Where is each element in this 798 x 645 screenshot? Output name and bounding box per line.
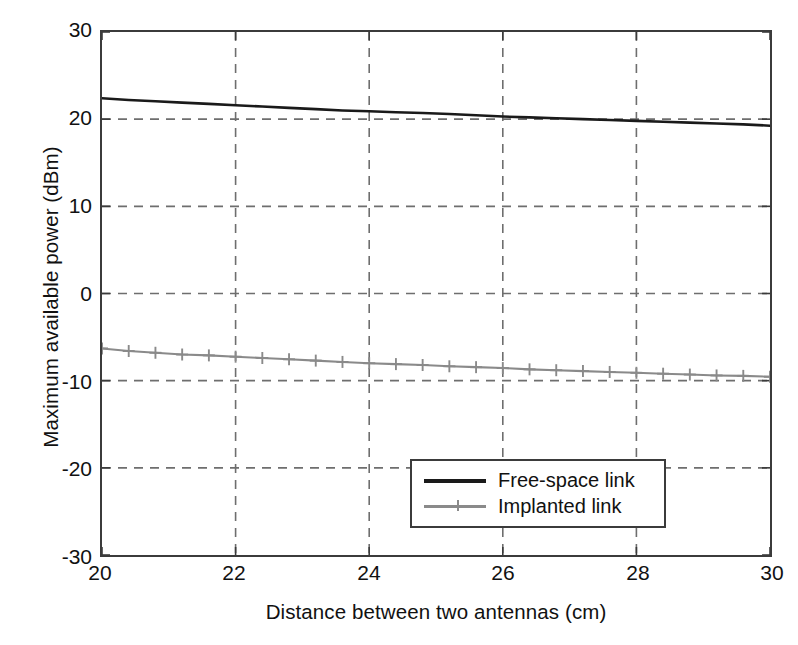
legend-line-plus-icon-implanted bbox=[422, 496, 488, 516]
series-markers-implanted-link bbox=[102, 342, 770, 382]
x-tick-label-26: 26 bbox=[468, 562, 538, 584]
data-series-layer bbox=[102, 98, 770, 382]
legend-label-free-space: Free-space link bbox=[498, 469, 635, 491]
legend-line-icon-free-space bbox=[422, 470, 488, 490]
x-tick-label-28: 28 bbox=[603, 562, 673, 584]
series-line-implanted-link bbox=[102, 348, 770, 376]
legend-item-implanted-link: Implanted link bbox=[422, 493, 654, 519]
chart-figure: Maximum available power (dBm) 30 20 10 0… bbox=[0, 0, 798, 645]
series-line-free-space-link bbox=[102, 98, 770, 125]
legend-label-implanted: Implanted link bbox=[498, 495, 621, 517]
x-axis-label: Distance between two antennas (cm) bbox=[100, 600, 772, 624]
chart-legend: Free-space link Implanted link bbox=[410, 459, 666, 528]
x-tick-label-24: 24 bbox=[334, 562, 404, 584]
x-tick-label-20: 20 bbox=[65, 562, 135, 584]
legend-item-free-space-link: Free-space link bbox=[422, 467, 654, 493]
x-tick-label-22: 22 bbox=[199, 562, 269, 584]
x-tick-label-30: 30 bbox=[737, 562, 798, 584]
